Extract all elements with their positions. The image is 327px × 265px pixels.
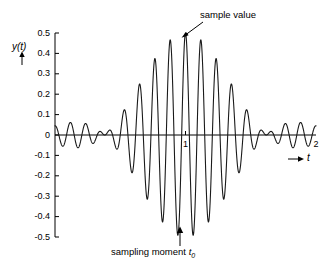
y-axis-tick-label: -0.2 xyxy=(24,171,50,180)
y-axis-tick-label: 0 xyxy=(24,131,50,140)
y-axis-tick-label: 0.4 xyxy=(24,49,50,58)
x-axis-tick-label: 1 xyxy=(179,140,193,149)
y-axis-tick-label: -0.1 xyxy=(24,151,50,160)
sample-value-arrow-icon xyxy=(182,22,204,38)
y-axis-tick-label: 0.2 xyxy=(24,90,50,99)
chart-figure: -0.5-0.4-0.3-0.2-0.100.10.20.30.40.5 12 … xyxy=(0,0,327,265)
sample-value-annotation: sample value xyxy=(200,10,256,20)
x-axis-arrow-icon xyxy=(288,156,304,161)
x-axis-tick-label: 2 xyxy=(309,140,323,149)
sampling-moment-annotation: sampling moment t0 xyxy=(111,247,195,259)
y-axis-tick-label: 0.5 xyxy=(24,29,50,38)
y-axis-tick-label: -0.4 xyxy=(24,212,50,221)
y-axis-tick-label: 0.3 xyxy=(24,69,50,78)
y-axis-tick-label: 0.1 xyxy=(24,110,50,119)
x-axis-title: t xyxy=(307,153,310,163)
y-axis-tick-label: -0.3 xyxy=(24,192,50,201)
y-axis-title: y(t) xyxy=(12,42,26,52)
sampling-moment-subscript: 0 xyxy=(191,252,195,259)
sampling-moment-text: sampling moment xyxy=(111,246,189,257)
sampling-moment-arrow-icon xyxy=(177,227,183,247)
y-axis-tick-label: -0.5 xyxy=(24,233,50,242)
